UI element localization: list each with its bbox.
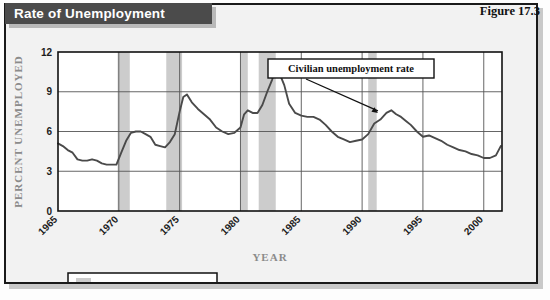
x-axis-title: YEAR (252, 251, 287, 263)
y-axis-tick-label: 9 (46, 86, 52, 97)
y-axis-tick-label: 3 (46, 166, 52, 177)
y-axis-tick-label: 12 (41, 47, 53, 58)
x-axis-tick-label: 1965 (36, 213, 60, 237)
x-axis-tick-label: 1970 (97, 213, 121, 237)
x-axis-tick-label: 2000 (462, 213, 486, 237)
x-axis-tick-label: 1985 (279, 213, 303, 237)
legend-label-recession-years: Recession years (101, 280, 171, 282)
x-axis-tick-label: 1975 (158, 213, 182, 237)
x-axis-tick-label: 1990 (340, 213, 364, 237)
x-axis-tick-label: 1980 (218, 213, 242, 237)
figure-title: Rate of Unemployment (14, 6, 165, 21)
y-axis-tick-label: 6 (46, 126, 52, 137)
title-banner: Rate of Unemployment (5, 3, 212, 24)
y-axis-title: PERCENT UNEMPLOYED (12, 55, 24, 208)
figure-number-label: Figure 17.3 (480, 4, 540, 19)
figure-container: Rate of Unemployment Figure 17.3 0369121… (0, 0, 550, 300)
legend-swatch-recession-years (76, 278, 91, 282)
chart-plot-area: 03691219651970197519801985199019952000PE… (6, 25, 536, 282)
annotation-label: Civilian unemployment rate (288, 63, 414, 74)
unemployment-line-chart: 03691219651970197519801985199019952000PE… (6, 25, 536, 282)
x-axis-tick-label: 1995 (401, 213, 425, 237)
